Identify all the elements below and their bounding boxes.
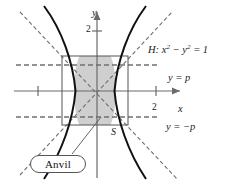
hyperbola-equation-label: H: x2 − y2 = 1 [148, 45, 208, 56]
y-equals-p-label: y = p [168, 73, 190, 84]
x-tick-label-2: 2 [152, 103, 157, 113]
x-axis-arrow [172, 88, 180, 95]
hyperbola-equation-middle: − y [170, 44, 187, 55]
y-axis-label: y [92, 8, 97, 19]
hyperbola-equation-suffix: = 1 [191, 44, 209, 55]
anvil-callout-label: Anvil [45, 158, 71, 170]
hyperbola-figure: H: x2 − y2 = 1 y = p y = −p y x 2 2 S An… [0, 0, 225, 185]
y-tick-label-2: 2 [86, 25, 91, 35]
hyperbola-equation-prefix: H: x [148, 44, 166, 55]
anvil-callout-box[interactable]: Anvil [30, 155, 86, 173]
x-axis-label: x [178, 104, 183, 115]
y-equals-negative-p-label: y = −p [166, 122, 195, 133]
region-s-label: S [111, 127, 116, 137]
